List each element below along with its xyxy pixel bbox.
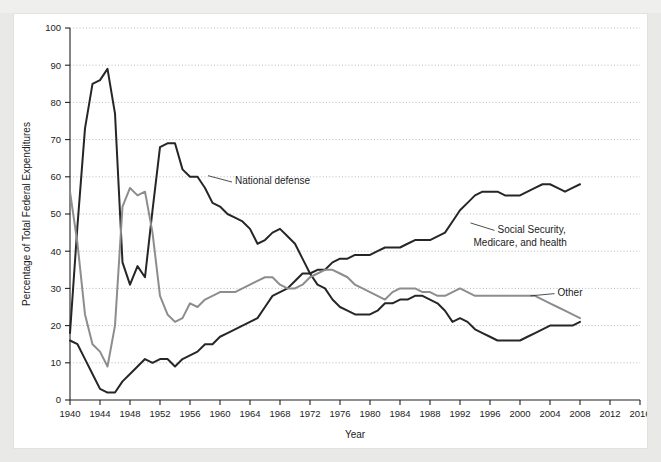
x-tick-label: 2016 — [629, 408, 647, 419]
y-tick-label: 90 — [50, 60, 61, 71]
x-tick-label: 1996 — [479, 408, 500, 419]
y-tick-label: 80 — [50, 97, 61, 108]
annotation-leader-line — [531, 294, 555, 296]
x-axis-title: Year — [345, 429, 366, 440]
x-tick-label: 1988 — [419, 408, 440, 419]
x-tick-label: 1964 — [239, 408, 260, 419]
x-tick-label: 1980 — [359, 408, 380, 419]
x-tick-label: 2012 — [599, 408, 620, 419]
x-tick-label: 1960 — [209, 408, 230, 419]
x-tick-label: 1944 — [89, 408, 110, 419]
x-tick-label: 1972 — [299, 408, 320, 419]
y-tick-label: 20 — [50, 320, 61, 331]
series-annotation-label: National defense — [235, 175, 310, 186]
x-tick-label: 2004 — [539, 408, 560, 419]
top-partial-text: · · · · · · · · — [40, 0, 111, 4]
annotation-leader-line — [208, 176, 232, 182]
chart-plot-area: 0102030405060708090100194019441948195219… — [14, 14, 647, 448]
series-annotation-label: Social Security,Medicare, and health — [474, 224, 567, 248]
annotation-leader-line — [471, 223, 495, 230]
x-tick-label: 2000 — [509, 408, 530, 419]
top-partial-text-strip: · · · · · · · · — [0, 0, 661, 13]
x-tick-label: 1940 — [59, 408, 80, 419]
annotation-line: Medicare, and health — [474, 237, 567, 248]
y-tick-label: 50 — [50, 208, 61, 219]
y-tick-label: 10 — [50, 357, 61, 368]
figure-panel: 0102030405060708090100194019441948195219… — [14, 14, 647, 448]
x-tick-label: 1992 — [449, 408, 470, 419]
x-tick-label: 1956 — [179, 408, 200, 419]
y-tick-label: 70 — [50, 134, 61, 145]
y-tick-label: 60 — [50, 171, 61, 182]
x-tick-label: 2008 — [569, 408, 590, 419]
series-annotation-label: Other — [558, 287, 584, 298]
annotation-line: Social Security, — [498, 224, 566, 235]
x-tick-label: 1948 — [119, 408, 140, 419]
x-tick-label: 1976 — [329, 408, 350, 419]
y-tick-label: 30 — [50, 283, 61, 294]
annotation-line: National defense — [235, 175, 310, 186]
y-axis-title: Percentage of Total Federal Expenditures — [21, 122, 32, 306]
y-tick-label: 0 — [56, 394, 61, 405]
line-chart-svg: 0102030405060708090100194019441948195219… — [14, 14, 647, 448]
x-tick-label: 1968 — [269, 408, 290, 419]
x-tick-label: 1952 — [149, 408, 170, 419]
x-tick-label: 1984 — [389, 408, 410, 419]
y-tick-label: 40 — [50, 246, 61, 257]
y-tick-label: 100 — [45, 22, 61, 33]
annotation-line: Other — [558, 287, 584, 298]
